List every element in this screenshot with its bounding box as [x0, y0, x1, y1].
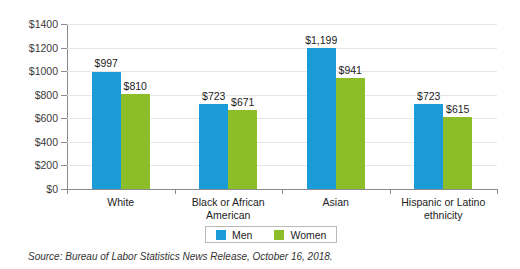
legend-label: Women — [290, 229, 326, 241]
y-axis-tick-label: $1400 — [29, 18, 58, 30]
bar-value-label: $671 — [231, 96, 254, 108]
bar-women-2 — [336, 78, 365, 189]
y-axis-tick-labels: $0$200$400$600$800$1000$1200$1400 — [0, 0, 58, 269]
category-label-line: ethnicity — [378, 209, 508, 222]
bar-value-label: $1,199 — [305, 34, 337, 46]
category-label-line: American — [163, 209, 293, 222]
legend-label: Men — [232, 229, 252, 241]
bar-women-0 — [121, 94, 150, 189]
chart-page: $0$200$400$600$800$1000$1200$1400 $997$8… — [0, 0, 520, 269]
y-axis-tick-label: $400 — [35, 136, 58, 148]
bar-value-label: $997 — [95, 57, 118, 69]
gridline — [67, 71, 497, 72]
gridline — [67, 24, 497, 25]
bar-men-0 — [92, 72, 121, 190]
legend-swatch-icon — [274, 230, 284, 240]
legend-item-women[interactable]: Women — [274, 229, 326, 241]
bar-value-label: $723 — [202, 90, 225, 102]
y-axis-tick-label: $0 — [46, 183, 58, 195]
bar-women-1 — [228, 110, 257, 189]
bar-value-label: $810 — [124, 80, 147, 92]
bar-value-label: $615 — [446, 103, 469, 115]
bar-value-label: $941 — [339, 64, 362, 76]
y-axis-tick-label: $1000 — [29, 65, 58, 77]
x-axis-tick-mark — [67, 189, 68, 194]
x-axis-tick-mark — [390, 189, 391, 194]
gridline — [67, 48, 497, 49]
y-axis-tick-label: $1200 — [29, 42, 58, 54]
chart-legend: MenWomen — [205, 226, 337, 243]
bar-men-2 — [307, 48, 336, 189]
bar-value-label: $723 — [417, 90, 440, 102]
bar-men-3 — [414, 104, 443, 189]
y-axis-tick-label: $200 — [35, 159, 58, 171]
y-axis-tick-label: $800 — [35, 89, 58, 101]
source-note: Source: Bureau of Labor Statistics News … — [28, 251, 333, 262]
legend-swatch-icon — [216, 230, 226, 240]
category-label-3: Hispanic or Latinoethnicity — [378, 196, 508, 221]
bar-women-3 — [443, 117, 472, 189]
bar-men-1 — [199, 104, 228, 189]
plot-area — [67, 24, 497, 189]
legend-item-men[interactable]: Men — [216, 229, 252, 241]
y-axis-tick-label: $600 — [35, 112, 58, 124]
x-axis-tick-mark — [175, 189, 176, 194]
category-label-line: Hispanic or Latino — [378, 196, 508, 209]
x-axis-tick-mark — [497, 189, 498, 194]
x-axis-tick-mark — [282, 189, 283, 194]
